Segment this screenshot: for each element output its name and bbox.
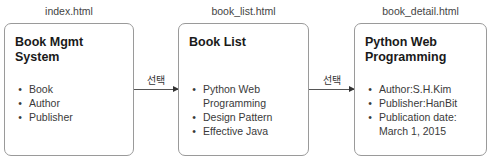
bullet-icon: • <box>16 96 24 110</box>
list-item-label: Publication date: March 1, 2015 <box>379 111 457 137</box>
arrow-label-select-2: 선택 <box>312 75 352 87</box>
list-item-label: Design Pattern <box>203 111 272 123</box>
list-item-label: Author <box>29 97 60 109</box>
list-item-design-pattern[interactable]: • Design Pattern <box>189 110 290 124</box>
list-item-publisher: • Publisher:HanBit <box>365 96 466 110</box>
page-box-book-list: Book List • Python Web Programming • Des… <box>178 23 309 156</box>
bullet-icon: • <box>366 96 374 110</box>
page-item-list: • Python Web Programming • Design Patter… <box>189 82 290 138</box>
arrow-index-to-list <box>134 89 178 90</box>
page-title: Python Web Programming <box>365 35 480 65</box>
list-item-label: Book <box>29 83 53 95</box>
list-item-label: Python Web Programming <box>203 83 266 109</box>
list-item-label: Publisher:HanBit <box>379 97 457 109</box>
bullet-icon: • <box>16 110 24 124</box>
list-item-python-web-programming[interactable]: • Python Web Programming <box>189 82 290 110</box>
list-item-author: • Author:S.H.Kim <box>365 82 466 96</box>
page-item-list: • Book • Author • Publisher <box>15 82 129 124</box>
page-title-line: Book Mgmt System <box>15 35 127 65</box>
list-item-author[interactable]: • Author <box>15 96 129 110</box>
bullet-icon: • <box>16 82 24 96</box>
page-title: Book Mgmt System <box>15 35 127 65</box>
bullet-icon: • <box>190 110 198 124</box>
list-item-book[interactable]: • Book <box>15 82 129 96</box>
bullet-icon: • <box>366 82 374 96</box>
list-item-effective-java[interactable]: • Effective Java <box>189 124 290 138</box>
page-box-book-detail: Python Web Programming • Author:S.H.Kim … <box>354 23 487 156</box>
page-title-line: Book List <box>189 35 302 50</box>
page-item-list: • Author:S.H.Kim • Publisher:HanBit • Pu… <box>365 82 466 138</box>
bullet-icon: • <box>190 82 198 96</box>
list-item-label: Publisher <box>29 111 73 123</box>
page-title-line: Programming <box>365 50 480 65</box>
filename-book-detail: book_detail.html <box>354 4 487 18</box>
page-title-line: Python Web <box>365 35 480 50</box>
arrow-list-to-detail <box>309 89 354 90</box>
bullet-icon: • <box>366 110 374 124</box>
page-title: Book List <box>189 35 302 50</box>
arrow-label-select-1: 선택 <box>136 75 176 87</box>
list-item-label: Effective Java <box>203 125 268 137</box>
page-box-index: Book Mgmt System • Book • Author • Publi… <box>4 23 134 156</box>
filename-book-list: book_list.html <box>178 4 309 18</box>
bullet-icon: • <box>190 124 198 138</box>
list-item-publication-date: • Publication date: March 1, 2015 <box>365 110 466 138</box>
list-item-label: Author:S.H.Kim <box>379 83 451 95</box>
filename-index: index.html <box>4 4 134 18</box>
list-item-publisher[interactable]: • Publisher <box>15 110 129 124</box>
